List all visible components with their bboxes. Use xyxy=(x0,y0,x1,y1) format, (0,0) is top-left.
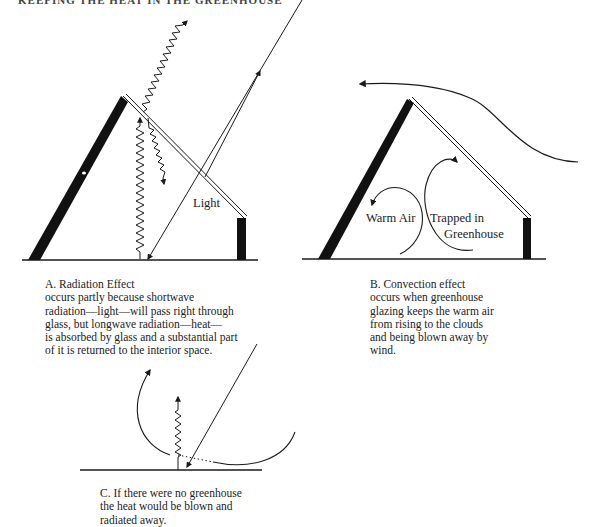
caption-a-body: occurs partly because shortwave radiatio… xyxy=(45,291,238,356)
panel-a-drawing xyxy=(22,0,302,260)
warm-air-label: Warm Air xyxy=(366,211,415,226)
heat-radiating-away xyxy=(175,397,181,470)
caption-c-body: the heat would be blown and radiated awa… xyxy=(100,500,233,525)
caption-a-title: A. Radiation Effect xyxy=(45,278,238,291)
caption-b: B. Convection effectoccurs when greenhou… xyxy=(370,265,494,357)
trapped-in-label: Trapped in xyxy=(430,211,484,226)
panel-b-drawing xyxy=(302,83,578,259)
caption-b-title: B. Convection effect xyxy=(370,278,494,291)
panel-a-short-wall xyxy=(237,218,246,260)
panel-c-drawing xyxy=(80,344,295,470)
light-ray-incoming xyxy=(148,0,302,259)
caption-c: C. If there were no greenhousethe heat w… xyxy=(100,474,242,527)
longwave-radiation-upward xyxy=(136,118,144,259)
heat-returned-downward xyxy=(148,118,165,184)
wind-curve-right xyxy=(213,432,295,465)
caption-b-body: occurs when greenhouse glazing keeps the… xyxy=(370,291,494,356)
panel-a-solid-wall xyxy=(28,96,128,260)
wind-flow-curve xyxy=(360,83,578,162)
longwave-radiation-escaping xyxy=(142,21,187,112)
light-label: Light xyxy=(193,196,220,211)
light-ray-reflected xyxy=(205,71,260,177)
air-blown-away-left xyxy=(137,370,170,455)
light-ray-incoming-c xyxy=(187,344,257,467)
panel-b-short-wall xyxy=(523,218,531,259)
panel-b-solid-wall xyxy=(318,99,414,259)
caption-a: A. Radiation Effectoccurs partly because… xyxy=(45,265,238,357)
greenhouse-label: Greenhouse xyxy=(444,227,504,242)
caption-c-title: C. If there were no greenhouse xyxy=(100,487,242,500)
